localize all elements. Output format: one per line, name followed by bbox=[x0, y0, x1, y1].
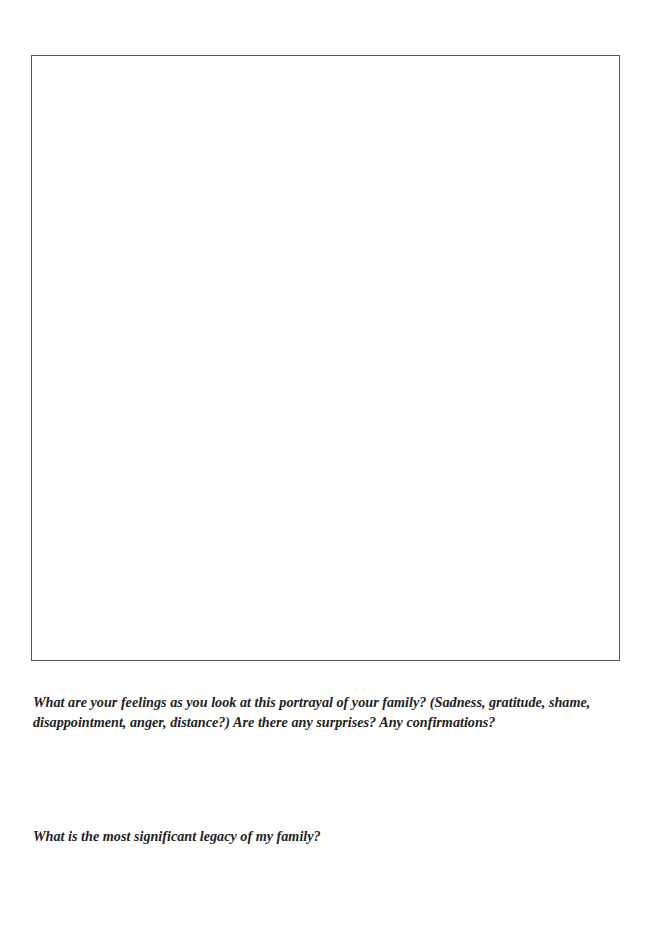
legacy-question: What is the most significant legacy of m… bbox=[33, 826, 321, 846]
feelings-question: What are your feelings as you look at th… bbox=[33, 692, 633, 732]
family-drawing-area[interactable] bbox=[31, 55, 620, 661]
